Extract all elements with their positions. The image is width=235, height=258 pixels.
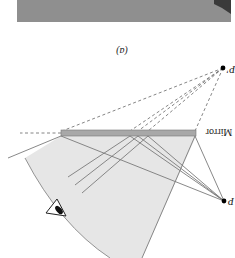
image-point: [221, 66, 226, 71]
object-label: P: [228, 196, 235, 207]
mirror-label: Mirror: [205, 127, 232, 138]
panel-label: (a): [116, 45, 128, 57]
object-point: [222, 199, 227, 204]
photo-strip: [17, 0, 231, 22]
visible-region: [25, 136, 196, 258]
mirror-reflection-figure: (a) Mirror P P': [0, 0, 235, 258]
image-label: P': [226, 64, 235, 75]
mirror: [61, 130, 196, 136]
